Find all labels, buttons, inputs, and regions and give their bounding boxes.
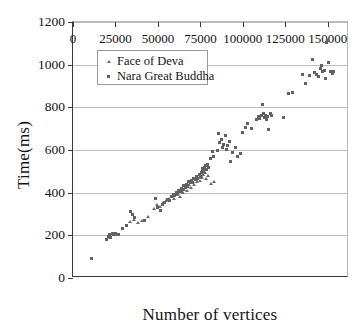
data-point: [287, 92, 290, 95]
data-point: [201, 173, 205, 176]
data-point: [308, 74, 311, 77]
data-point: [185, 183, 188, 186]
data-point: [155, 203, 159, 206]
data-point: [241, 131, 244, 134]
data-point: [181, 188, 184, 191]
data-point: [105, 238, 108, 241]
data-point: [282, 116, 285, 119]
data-point: [164, 199, 168, 202]
data-point: [311, 58, 314, 61]
data-point: [262, 112, 265, 115]
x-tick-label: 100000: [223, 31, 262, 47]
triangle-marker-icon: [104, 60, 113, 63]
data-point: [132, 218, 136, 221]
gridline: [73, 150, 347, 151]
y-tick-label: 400: [45, 185, 65, 201]
y-tick-mark: [68, 150, 73, 151]
data-point: [332, 70, 335, 73]
y-tick-label: 600: [45, 142, 65, 158]
y-tick-label: 200: [45, 227, 65, 243]
data-point: [301, 73, 304, 76]
data-point: [140, 219, 144, 222]
data-point: [228, 140, 231, 143]
data-point: [209, 157, 212, 160]
data-point: [200, 171, 203, 174]
data-point: [224, 134, 227, 137]
legend-entry: Face of Deva: [104, 54, 207, 69]
data-point: [331, 72, 334, 75]
data-point: [177, 189, 180, 192]
x-tick-mark: [73, 22, 74, 27]
data-point: [236, 155, 239, 158]
square-marker-icon: [104, 75, 113, 78]
data-point: [203, 167, 206, 170]
data-point: [313, 71, 316, 74]
data-point: [222, 143, 225, 146]
gridline: [73, 22, 347, 23]
chart-legend: Face of DevaNara Great Buddha: [97, 50, 208, 85]
y-tick-label: 1000: [38, 57, 65, 73]
x-tick-mark: [158, 22, 159, 27]
data-point: [175, 193, 179, 196]
data-point: [129, 210, 132, 213]
data-point: [204, 164, 207, 167]
legend-label: Face of Deva: [117, 54, 184, 69]
data-point: [269, 112, 272, 115]
y-axis-title: Time(ms): [14, 55, 34, 255]
data-point: [187, 180, 190, 183]
data-point: [218, 141, 221, 144]
data-point: [231, 151, 234, 154]
y-tick-mark: [68, 235, 73, 236]
data-point: [192, 183, 196, 186]
data-point: [194, 178, 198, 181]
data-point: [121, 227, 124, 230]
legend-label: Nara Great Buddha: [117, 69, 214, 84]
data-point: [201, 167, 204, 170]
data-point: [321, 70, 324, 73]
data-point: [146, 215, 150, 218]
gridline: [73, 107, 347, 108]
data-point: [267, 128, 270, 131]
data-point: [186, 185, 190, 188]
x-tick-label: 125000: [266, 31, 305, 47]
legend-entry: Nara Great Buddha: [104, 69, 207, 84]
data-point: [166, 198, 169, 201]
data-point: [195, 175, 198, 178]
data-point: [317, 75, 320, 78]
data-point: [170, 195, 173, 198]
data-point: [186, 184, 189, 187]
data-point: [168, 199, 171, 202]
data-point: [90, 257, 93, 260]
data-point: [191, 180, 195, 183]
data-point: [217, 132, 220, 135]
data-point: [108, 236, 112, 239]
data-point: [190, 181, 194, 184]
data-point: [329, 70, 332, 73]
data-point: [266, 115, 269, 118]
data-point: [170, 195, 174, 198]
y-tick-label: 0: [58, 270, 65, 286]
data-point: [133, 216, 136, 219]
data-point: [315, 73, 318, 76]
x-tick-label: 150000: [308, 31, 347, 47]
data-point: [200, 176, 204, 179]
gridline: [73, 193, 347, 194]
data-point: [221, 146, 224, 149]
x-tick-mark: [115, 22, 116, 27]
data-point: [198, 173, 201, 176]
data-point: [229, 160, 232, 163]
data-point: [128, 220, 132, 223]
data-point: [152, 207, 156, 210]
data-point: [220, 138, 223, 141]
data-point: [189, 186, 193, 189]
x-tick-mark: [328, 22, 329, 27]
data-point: [263, 116, 266, 119]
data-point: [244, 126, 247, 129]
y-tick-label: 800: [45, 99, 65, 115]
data-point: [206, 163, 209, 166]
data-point: [323, 69, 326, 72]
data-point: [324, 77, 327, 80]
data-point: [204, 177, 208, 180]
data-point: [234, 146, 237, 149]
data-point: [172, 197, 176, 200]
